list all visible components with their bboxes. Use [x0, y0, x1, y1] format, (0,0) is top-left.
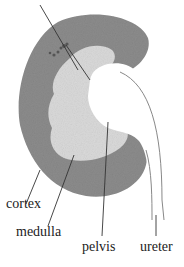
label-ureter: ureter: [140, 239, 173, 254]
label-pelvis: pelvis: [82, 239, 115, 254]
label-cortex: cortex: [6, 196, 41, 211]
kidney-diagram: cortex medulla pelvis ureter: [0, 0, 184, 267]
label-medulla: medulla: [16, 224, 62, 239]
